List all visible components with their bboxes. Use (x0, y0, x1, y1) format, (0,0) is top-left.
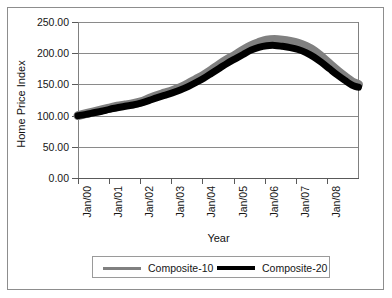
x-tick-label-jan08: Jan/08 (331, 186, 342, 232)
x-tick-4 (202, 179, 203, 184)
gridline-150 (78, 84, 359, 85)
x-tick-6 (265, 179, 266, 184)
y-tick-150 (72, 84, 78, 85)
chart-legend: Composite-10 Composite-20 (92, 256, 330, 278)
x-tick-label-jan00: Jan/00 (82, 186, 93, 232)
y-tick-50 (72, 147, 78, 148)
y-tick-250 (72, 22, 78, 23)
x-tick-8 (327, 179, 328, 184)
x-tick-label-jan02: Jan/02 (144, 186, 155, 232)
x-tick-label-jan04: Jan/04 (206, 186, 217, 232)
chart-figure: 250.00 200.00 150.00 100.00 50.00 0.00 H… (0, 0, 392, 298)
y-tick-200 (72, 53, 78, 54)
legend-swatch-composite-10 (103, 267, 141, 270)
x-axis-title: Year (78, 232, 359, 244)
legend-item-composite-10[interactable]: Composite-10 (103, 261, 213, 275)
y-axis-line (78, 22, 79, 179)
x-tick-label-jan01: Jan/01 (113, 186, 124, 232)
x-tick-label-jan07: Jan/07 (300, 186, 311, 232)
x-tick-label-jan05: Jan/05 (238, 186, 249, 232)
x-tick-1 (109, 179, 110, 184)
gridline-50 (78, 147, 359, 148)
y-tick-label-250: 250.00 (0, 17, 69, 27)
y-axis-title: Home Price Index (15, 39, 27, 169)
x-tick-0 (78, 179, 79, 184)
plot-right-edge (358, 22, 359, 179)
legend-label-composite-10: Composite-10 (148, 263, 213, 274)
x-tick-label-jan03: Jan/03 (175, 186, 186, 232)
y-tick-label-200: 200.00 (0, 48, 69, 58)
gridline-250 (78, 22, 359, 23)
y-tick-100 (72, 116, 78, 117)
y-tick-label-0: 0.00 (0, 173, 69, 183)
legend-swatch-composite-20 (217, 266, 255, 270)
y-tick-label-100: 100.00 (0, 111, 69, 121)
x-tick-label-jan06: Jan/06 (269, 186, 280, 232)
x-tick-2 (140, 179, 141, 184)
legend-label-composite-20: Composite-20 (262, 263, 327, 274)
x-tick-3 (171, 179, 172, 184)
y-tick-label-150: 150.00 (0, 79, 69, 89)
x-tick-7 (296, 179, 297, 184)
x-tick-5 (234, 179, 235, 184)
gridline-200 (78, 53, 359, 54)
gridline-100 (78, 116, 359, 117)
x-axis-line (78, 178, 359, 179)
legend-item-composite-20[interactable]: Composite-20 (217, 261, 327, 275)
y-tick-label-50: 50.00 (0, 142, 69, 152)
